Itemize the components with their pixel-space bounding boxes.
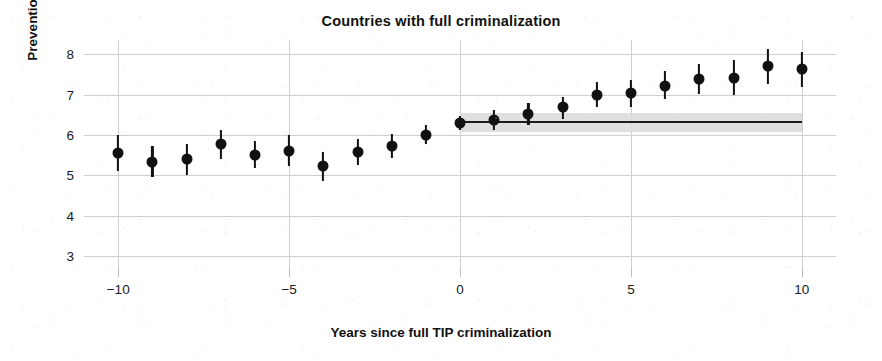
data-point	[352, 147, 363, 158]
data-point	[147, 156, 158, 167]
x-gridline	[631, 40, 632, 268]
plot-area: 345678−10−50510	[84, 40, 836, 268]
x-tick-label: 10	[794, 282, 809, 297]
data-point	[625, 88, 636, 99]
data-point	[181, 154, 192, 165]
y-tick-label: 8	[50, 47, 74, 62]
data-point	[318, 161, 329, 172]
data-point	[249, 150, 260, 161]
x-tick-mark	[460, 268, 461, 277]
data-point	[386, 141, 397, 152]
data-point	[284, 146, 295, 157]
x-axis-title: Years since full TIP criminalization	[0, 325, 882, 340]
x-tick-label: 5	[627, 282, 635, 297]
data-point	[420, 129, 431, 140]
reference-line	[460, 121, 802, 123]
chart-figure: Countries with full criminalization Prev…	[0, 0, 882, 361]
data-point	[113, 148, 124, 159]
x-tick-mark	[802, 268, 803, 277]
data-point	[694, 74, 705, 85]
x-gridline	[460, 40, 461, 268]
y-axis-title-container: Prevention and protection indexes	[30, 40, 46, 276]
x-tick-label: −10	[107, 282, 130, 297]
data-point	[660, 80, 671, 91]
x-tick-label: −5	[281, 282, 296, 297]
x-tick-mark	[289, 268, 290, 277]
data-point	[728, 72, 739, 83]
data-point	[591, 89, 602, 100]
chart-title: Countries with full criminalization	[0, 13, 882, 29]
y-tick-label: 3	[50, 248, 74, 263]
data-point	[523, 108, 534, 119]
y-tick-label: 4	[50, 208, 74, 223]
x-tick-mark	[631, 268, 632, 277]
data-point	[762, 61, 773, 72]
y-tick-label: 7	[50, 87, 74, 102]
data-point	[557, 102, 568, 113]
y-tick-label: 5	[50, 168, 74, 183]
data-point	[489, 114, 500, 125]
y-tick-label: 6	[50, 127, 74, 142]
y-axis-title: Prevention and protection indexes	[25, 0, 41, 68]
x-tick-label: 0	[456, 282, 464, 297]
data-point	[796, 64, 807, 75]
data-point	[455, 117, 466, 128]
x-tick-mark	[118, 268, 119, 277]
data-point	[215, 138, 226, 149]
